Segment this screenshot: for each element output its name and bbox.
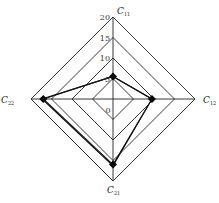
grid-spokes (31, 17, 195, 181)
series-group (39, 72, 156, 168)
tick-label-20: 20 (100, 13, 110, 22)
axis-label-C11: C11 (117, 6, 130, 17)
tick-label-15: 15 (100, 34, 110, 43)
tick-label-0: 0 (105, 106, 110, 115)
axis-label-C22: C22 (1, 95, 14, 106)
tick-label-10: 10 (100, 54, 110, 63)
series-line-series-2 (42, 76, 152, 165)
axis-label-C12: C12 (203, 95, 216, 106)
radar-chart: 05101520 C11C12C21C22 (0, 0, 219, 203)
axis-label-C21: C21 (107, 185, 120, 196)
